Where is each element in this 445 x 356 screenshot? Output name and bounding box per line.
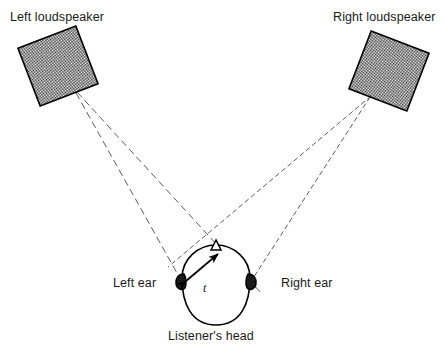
right-loudspeaker-body: [349, 31, 429, 111]
label-right-loudspeaker: Right loudspeaker: [333, 10, 435, 24]
listeners-head: [176, 240, 256, 325]
stereo-crosstalk-diagram: [0, 0, 445, 356]
label-left-ear: Left ear: [113, 276, 156, 290]
right-ear-icon: [246, 274, 256, 289]
left-loudspeaker-body: [18, 26, 98, 106]
label-right-ear: Right ear: [281, 276, 333, 290]
path-right-speaker-to-right-ear: [250, 97, 370, 283]
figure-canvas: Left loudspeaker Right loudspeaker Left …: [0, 0, 445, 356]
head-outline: [182, 245, 250, 325]
left-ear-icon: [176, 274, 186, 289]
label-listeners-head: Listener's head: [168, 329, 254, 343]
path-right-speaker-to-left-ear: [168, 96, 371, 267]
left-loudspeaker: [18, 26, 98, 106]
label-left-loudspeaker: Left loudspeaker: [10, 10, 104, 24]
label-time-delay-symbol: t: [203, 281, 206, 296]
right-loudspeaker: [349, 31, 429, 111]
path-left-speaker-to-left-ear: [76, 93, 182, 282]
